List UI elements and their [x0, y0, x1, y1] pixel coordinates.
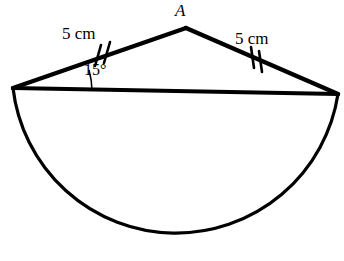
- semicircle-arc: [13, 88, 338, 233]
- base-angle-label: 15°: [84, 62, 106, 78]
- left-side-length-label: 5 cm: [62, 25, 96, 42]
- right-side-length-label: 5 cm: [235, 30, 269, 47]
- geometry-canvas: [0, 0, 344, 261]
- geometry-figure: A 5 cm 5 cm 15°: [0, 0, 344, 261]
- triangle-side-left: [13, 28, 186, 88]
- apex-vertex-label: A: [175, 2, 185, 19]
